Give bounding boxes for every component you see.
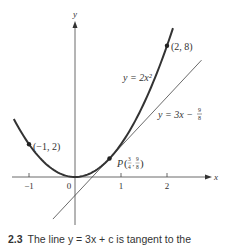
point-p-y-num: 9 xyxy=(136,156,139,162)
tangent-label-prefix: y = 3x − xyxy=(157,109,193,120)
tangent-label-frac-num: 9 xyxy=(198,107,201,113)
point-p-letter: P xyxy=(116,158,123,169)
tangent-label-frac-den: 8 xyxy=(198,115,201,121)
x-tick-label: 1 xyxy=(119,181,124,191)
point-p-y-den: 8 xyxy=(136,164,139,170)
tangent-label: y = 3x − 9 8 xyxy=(157,107,202,121)
point-p-x-den: 4 xyxy=(128,164,131,170)
data-point xyxy=(165,44,169,48)
point-p-comma: , xyxy=(133,160,135,168)
x-ticks: −1012 xyxy=(24,173,169,191)
parabola-curve xyxy=(14,28,173,177)
point-p-rparen: ) xyxy=(140,157,144,170)
caption-text: The line y = 3x + c is tangent to the xyxy=(28,233,191,245)
data-point xyxy=(107,156,111,160)
point-p-x-num: 3 xyxy=(128,156,131,162)
y-axis-label: y xyxy=(72,9,77,19)
curve-label: y = 2x² xyxy=(122,72,153,83)
caption-number: 2.3 xyxy=(8,233,23,245)
point-label-2-8: (2, 8) xyxy=(171,41,193,53)
x-tick-label: 0 xyxy=(67,181,72,191)
data-point xyxy=(27,142,31,146)
point-label-neg1-2: (−1, 2) xyxy=(33,141,60,153)
x-axis-arrow-icon xyxy=(205,175,212,180)
y-axis-arrow-icon xyxy=(73,21,78,28)
x-tick-label: −1 xyxy=(24,181,34,191)
figure-graph: x y −1012 y = 2x² y = 3x − 9 8 (−1, 2) (… xyxy=(0,0,228,232)
x-axis-label: x xyxy=(213,172,218,182)
point-label-p: P ( 3 4 , 9 8 ) xyxy=(116,156,144,170)
x-tick-label: 2 xyxy=(165,181,170,191)
figure-caption: 2.3The line y = 3x + c is tangent to the xyxy=(8,233,191,245)
